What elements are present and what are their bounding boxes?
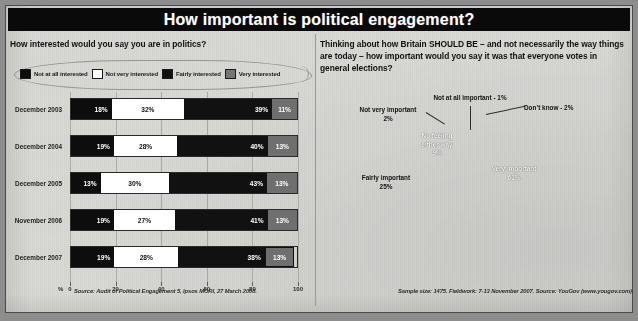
bar-row: 19%28%40%13% (70, 135, 298, 157)
page-title: How important is political engagement? (8, 8, 630, 31)
legend-item-0: Not at all interested (20, 69, 88, 79)
bar-segment: 28% (114, 247, 178, 267)
axis-unit-label: % (58, 286, 63, 292)
pie-label-no-feeling-l1: No feeling (406, 132, 468, 141)
bar-row-label: November 2006 (8, 209, 66, 231)
pie-label-not-very-text: Not very important (340, 106, 436, 115)
legend-label-3: Very interested (239, 71, 281, 77)
pie-label-very-value: 61% (466, 174, 562, 183)
bar-row-label: December 2003 (8, 98, 66, 120)
bar-row: 18%32%39%11% (70, 98, 298, 120)
bar-segment: 13% (265, 247, 295, 267)
leader-line-not-at-all (470, 106, 471, 130)
pie-label-not-very-value: 2% (340, 115, 436, 124)
bar-segment: 39% (184, 99, 272, 119)
pie-label-no-feeling-value: 9% (406, 149, 468, 158)
legend-item-2: Fairly interested (162, 69, 221, 79)
pie-chart-question: Thinking about how Britain SHOULD BE – a… (320, 38, 626, 74)
pie-label-not-at-all: Not at all important - 1% (410, 94, 530, 103)
pie-label-fairly-value: 25% (346, 183, 426, 192)
bar-segment: 13% (268, 136, 297, 156)
bar-row-label: December 2005 (8, 172, 66, 194)
pie-label-dont-know: Don’t know - 2% (524, 104, 614, 113)
bar-segment: 19% (71, 136, 114, 156)
pie-label-fairly-text: Fairly important (346, 174, 426, 183)
bar-segment: 13% (71, 173, 101, 193)
bar-plot: 18%32%39%11%19%28%40%13%13%30%43%13%19%2… (70, 92, 298, 282)
pie-chart-area: Not at all important - 1% Don’t know - 2… (318, 80, 628, 280)
bar-segment: 28% (114, 136, 177, 156)
legend-swatch-icon-2 (162, 69, 173, 79)
x-axis-tick-label: 100 (293, 286, 303, 292)
bar-row: 19%27%41%13% (70, 209, 298, 231)
bar-chart-panel: How interested would you say you are in … (8, 36, 314, 308)
legend-label-0: Not at all interested (34, 71, 88, 77)
pie-chart-source: Sample size: 1475. Fieldwork: 7-13 Novem… (398, 288, 633, 294)
legend-label-2: Fairly interested (176, 71, 221, 77)
bar-segment: 43% (169, 173, 267, 193)
infographic-page: How important is political engagement? H… (0, 0, 638, 321)
panel-divider (315, 34, 316, 306)
page-title-text: How important is political engagement? (164, 11, 475, 29)
bar-row: 19%28%38%13% (70, 246, 298, 268)
pie-label-no-feeling-l2: either way (406, 141, 468, 150)
bar-segment: 11% (272, 99, 297, 119)
bar-row-label: December 2007 (8, 246, 66, 268)
bar-row: 13%30%43%13% (70, 172, 298, 194)
legend-item-3: Very interested (225, 69, 281, 79)
bar-segment: 18% (71, 99, 112, 119)
bar-chart-plot-area: 18%32%39%11%19%28%40%13%13%30%43%13%19%2… (8, 92, 310, 282)
pie-label-no-feeling: No feeling either way 9% (406, 132, 468, 158)
bar-chart-source: Source: Audit of Political Engagement 5,… (74, 288, 257, 294)
legend-swatch-icon-3 (225, 69, 236, 79)
bar-segment: 13% (267, 173, 297, 193)
legend-item-1: Not very interested (92, 69, 158, 79)
bar-segment: 40% (177, 136, 267, 156)
gridline-100 (298, 92, 299, 282)
x-axis-tick-label: 0 (68, 286, 71, 292)
pie-label-fairly-important: Fairly important 25% (346, 174, 426, 191)
bar-segment: 30% (101, 173, 169, 193)
pie-label-very-text: Very important (466, 165, 562, 174)
bar-segment: 32% (112, 99, 184, 119)
legend-swatch-icon-0 (20, 69, 31, 79)
pie-chart-panel: Thinking about how Britain SHOULD BE – a… (318, 36, 630, 308)
bar-chart-legend: Not at all interestedNot very interested… (20, 64, 302, 84)
pie-label-very-important: Very important 61% (466, 165, 562, 182)
bar-segment: 19% (71, 247, 114, 267)
bar-segment: 38% (178, 247, 265, 267)
bar-segment: 27% (114, 210, 175, 230)
legend-label-1: Not very interested (106, 71, 158, 77)
bar-segment: 41% (175, 210, 268, 230)
bar-chart-question: How interested would you say you are in … (10, 38, 310, 50)
pie-label-not-very: Not very important 2% (340, 106, 436, 123)
bar-segment: 13% (268, 210, 297, 230)
bar-segment: 19% (71, 210, 114, 230)
bar-row-label: December 2004 (8, 135, 66, 157)
legend-swatch-icon-1 (92, 69, 103, 79)
